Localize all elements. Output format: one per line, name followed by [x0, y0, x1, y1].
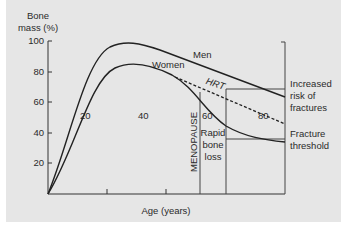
age-label-60: 60 [202, 110, 213, 121]
x-axis-label: Age (years) [141, 205, 190, 216]
svg-text:20: 20 [33, 157, 44, 168]
men-label: Men [193, 49, 211, 60]
fractures-label: fractures [290, 102, 327, 113]
y-axis-label-line1: Bone [27, 10, 49, 21]
rapid-label: Rapid [201, 127, 226, 138]
svg-text:40: 40 [33, 127, 44, 138]
svg-text:80: 80 [33, 66, 44, 77]
risk-of-label: risk of [290, 90, 316, 101]
women-label: Women [152, 59, 185, 70]
hrt-label: HRT [205, 75, 228, 92]
increased-label: Increased [290, 78, 332, 89]
threshold-label: threshold [290, 140, 329, 151]
bone-mass-chart: 100 80 60 40 20 Bone mass (%) Age (years… [0, 0, 347, 231]
fracture-label: Fracture [290, 128, 325, 139]
svg-text:60: 60 [33, 96, 44, 107]
bone-label: bone [202, 139, 223, 150]
y-axis-label-line2: mass (%) [18, 22, 58, 33]
age-label-80: 80 [258, 110, 269, 121]
y-tick-labels: 100 80 60 40 20 [28, 35, 44, 168]
age-label-40: 40 [138, 110, 149, 121]
menopause-label: MENOPAUSE [188, 112, 199, 172]
loss-label: loss [205, 151, 222, 162]
svg-text:100: 100 [28, 35, 44, 46]
